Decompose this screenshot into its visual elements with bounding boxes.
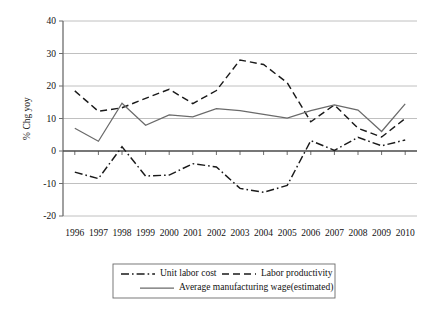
y-axis-title-text: % Chg yoy (22, 97, 32, 140)
x-tick-labels: 1996199719981999200020012002200320042005… (65, 228, 415, 238)
x-tick-label: 2008 (349, 228, 368, 238)
legend-label-0: Unit labor cost (160, 268, 217, 278)
legend-label-2: Average manufacturing wage(estimated) (179, 282, 333, 293)
gridlines (63, 21, 417, 216)
x-tick-label: 2004 (254, 228, 273, 238)
chart-figure: 403020100-10-20 199619971998199920002001… (0, 0, 440, 310)
y-tick-label: -10 (43, 179, 56, 189)
x-tick-label: 2002 (207, 228, 226, 238)
x-tick-label: 1996 (65, 228, 84, 238)
line-chart: 403020100-10-20 199619971998199920002001… (0, 0, 440, 310)
y-tick-label: 30 (47, 49, 57, 59)
series-lines (75, 60, 405, 192)
x-tick-label: 1999 (136, 228, 155, 238)
y-axis-title: % Chg yoy (22, 97, 32, 140)
series-line-0 (75, 137, 405, 192)
y-tick-label: 10 (47, 114, 57, 124)
x-tick-label: 2003 (231, 228, 250, 238)
x-tick-label: 2001 (183, 228, 202, 238)
x-tick-label: 1998 (113, 228, 132, 238)
series-line-2 (75, 103, 405, 141)
series-line-1 (75, 60, 405, 137)
x-tick-label: 2005 (278, 228, 297, 238)
y-tick-label: 0 (51, 146, 56, 156)
y-tick-labels: 403020100-10-20 (43, 16, 56, 221)
y-tick-label: 20 (47, 81, 57, 91)
chart-legend: Unit labor costLabor productivityAverage… (113, 264, 335, 298)
x-tick-label: 2000 (160, 228, 179, 238)
legend-label-1: Labor productivity (261, 268, 333, 278)
y-tick-label: 40 (47, 16, 57, 26)
x-tick-label: 2007 (325, 228, 344, 238)
x-tick-label: 2006 (301, 228, 320, 238)
y-tick-label: -20 (43, 211, 56, 221)
x-tick-label: 1997 (89, 228, 108, 238)
x-tick-label: 2010 (396, 228, 415, 238)
x-tick-label: 2009 (372, 228, 391, 238)
